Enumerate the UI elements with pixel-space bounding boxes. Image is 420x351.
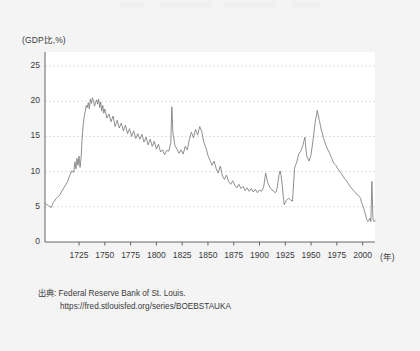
source-line-1: 出典: Federal Reserve Bank of St. Louis. <box>38 288 231 301</box>
source-line-2: https://fred.stlouisfed.org/series/BOEBS… <box>38 301 231 314</box>
chart-figure: (GDP比,%) (年) 0510152025 1725175017751800… <box>0 0 420 351</box>
tick-mark-group <box>79 242 363 246</box>
plot-background <box>45 52 375 242</box>
source-note: 出典: Federal Reserve Bank of St. Louis. h… <box>38 288 231 313</box>
